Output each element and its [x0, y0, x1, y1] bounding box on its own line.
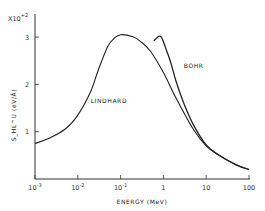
- stopping-power-chart: 123 10-310-210-1110100 X10+2 S_HL^U (eV/…: [0, 0, 265, 211]
- x-tick-label: 10-1: [114, 182, 127, 193]
- x-tick-label: 10-3: [28, 182, 41, 193]
- x-ticks: 10-310-210-1110100: [28, 175, 255, 192]
- x-tick-label: 10-2: [71, 182, 84, 193]
- bohr-curve: [154, 36, 249, 169]
- bohr-label: BOHR: [184, 62, 204, 69]
- x-tick-label: 100: [243, 184, 255, 192]
- lindhard-label: LINDHARD: [91, 97, 127, 104]
- y-axis-title: S_HL^U (eV/Å): [10, 89, 18, 141]
- x-axis-title: ENERGY (MeV): [116, 198, 167, 205]
- lindhard-curve: [35, 35, 249, 170]
- y-tick-label: 1: [25, 128, 29, 136]
- y-tick-label: 3: [25, 34, 29, 42]
- x-tick-label: 1: [161, 184, 165, 192]
- y-multiplier: X10+2: [8, 12, 28, 23]
- y-tick-label: 2: [25, 81, 29, 89]
- y-ticks: 123: [25, 34, 39, 137]
- x-tick-label: 10: [202, 184, 210, 192]
